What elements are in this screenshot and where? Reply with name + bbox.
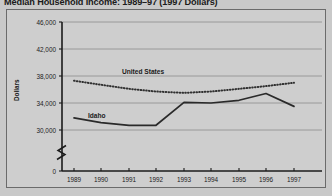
x-tick-label-1993: 1993	[169, 176, 199, 183]
page-title: Median Household Income: 1989–97 (1997 D…	[4, 0, 328, 7]
x-tick-label-1990: 1990	[86, 176, 116, 183]
y-tick-label-38000: 38,000	[16, 73, 56, 80]
x-tick-label-1995: 1995	[224, 176, 254, 183]
series-label-united-states: United States	[122, 68, 164, 75]
series-label-idaho: Idaho	[88, 112, 106, 119]
y-tick-label-42000: 42,000	[16, 46, 56, 53]
y-tick-label-0: 0	[16, 168, 56, 175]
x-tick-label-1996: 1996	[251, 176, 281, 183]
x-tick-label-1997: 1997	[279, 176, 309, 183]
y-tick-label-34000: 34,000	[16, 100, 56, 107]
x-tick-label-1989: 1989	[59, 176, 89, 183]
x-tick-label-1992: 1992	[141, 176, 171, 183]
y-tick-label-46000: 46,000	[16, 19, 56, 26]
y-tick-label-30000: 30,000	[16, 127, 56, 134]
y-axis-title: Dollars	[10, 60, 24, 120]
chart-page: Median Household Income: 1989–97 (1997 D…	[0, 0, 332, 196]
plot-frame	[6, 9, 326, 188]
x-tick-label-1991: 1991	[114, 176, 144, 183]
x-tick-label-1994: 1994	[196, 176, 226, 183]
